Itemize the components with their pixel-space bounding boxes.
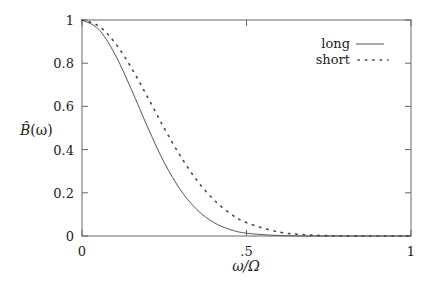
x-tick-label: 1 <box>407 244 415 259</box>
series-line-short <box>82 20 411 236</box>
x-tick-label: 0 <box>78 244 86 259</box>
series-line-long <box>82 20 411 236</box>
chart: 00.20.40.60.81 0.51 long short B̂(ω) ω/Ω <box>0 0 426 284</box>
y-axis-ticks: 00.20.40.60.81 <box>53 13 411 244</box>
y-axis-label-arg: (ω) <box>30 122 52 138</box>
legend-label-long: long <box>321 36 350 51</box>
x-tick-label: .5 <box>240 244 252 259</box>
legend: long short <box>316 36 388 67</box>
y-axis-label: B̂(ω) <box>19 121 53 138</box>
y-tick-label: 0.8 <box>53 56 74 71</box>
y-tick-label: 0.2 <box>53 186 74 201</box>
x-axis-label: ω/Ω <box>232 258 260 274</box>
plot-frame <box>82 20 411 236</box>
legend-label-short: short <box>316 52 351 67</box>
svg-text:B̂(ω): B̂(ω) <box>19 121 53 138</box>
y-axis-label-main: B̂ <box>19 121 30 138</box>
series-layer <box>82 20 411 236</box>
plot-border <box>82 20 411 236</box>
y-tick-label: 0.4 <box>53 143 74 158</box>
y-tick-label: 1 <box>66 13 74 28</box>
y-tick-label: 0.6 <box>53 99 74 114</box>
y-tick-label: 0 <box>66 229 74 244</box>
